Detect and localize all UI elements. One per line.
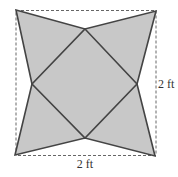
star-net-diagram: 2 ft 2 ft bbox=[0, 0, 178, 177]
right-side-label: 2 ft bbox=[158, 77, 175, 91]
bottom-side-label: 2 ft bbox=[77, 157, 94, 171]
star-shape bbox=[15, 10, 156, 156]
